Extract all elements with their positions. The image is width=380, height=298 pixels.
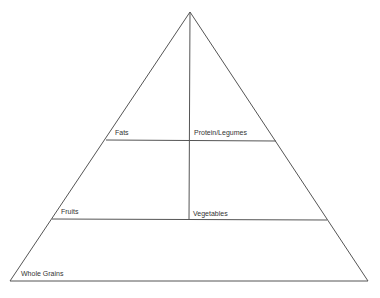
center-divider <box>189 12 190 220</box>
label-protein-legumes: Protein/Legumes <box>194 129 247 136</box>
label-fruits: Fruits <box>61 208 79 215</box>
food-pyramid-diagram <box>0 0 380 298</box>
label-fats: Fats <box>115 129 129 136</box>
tier-divider-top <box>106 140 276 141</box>
pyramid-right-edge <box>190 12 368 281</box>
label-vegetables: Vegetables <box>193 210 228 217</box>
label-whole-grains: Whole Grains <box>21 270 63 277</box>
pyramid-left-edge <box>10 12 190 281</box>
